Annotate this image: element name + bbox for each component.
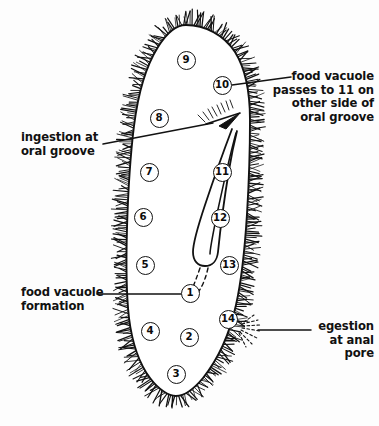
label-egestion-at-anal-pore: egestion at anal pore [264,320,374,361]
anal-pore-egestion-spray [239,315,260,347]
stage-marker-9: 9 [177,51,196,70]
stage-marker-11: 11 [213,163,232,182]
stage-marker-5: 5 [136,256,155,275]
stage-marker-10: 10 [213,76,232,95]
stage-marker-3: 3 [167,365,186,384]
stage-marker-1: 1 [181,284,200,303]
stage-marker-8: 8 [150,109,169,128]
label-food-vacuole-formation: food vacuole formation [21,286,141,313]
stage-marker-6: 6 [134,208,153,227]
stage-marker-7: 7 [140,163,159,182]
stage-marker-12: 12 [211,209,230,228]
label-food-vacuole-passes-to-11: food vacuole passes to 11 on other side … [242,70,374,124]
stage-marker-2: 2 [180,328,199,347]
stage-marker-14: 14 [219,310,238,329]
stage-marker-13: 13 [220,256,239,275]
paramecium-diagram: ingestion at oral groove food vacuole fo… [0,0,379,426]
label-ingestion-at-oral-groove: ingestion at oral groove [21,131,141,158]
stage-marker-4: 4 [141,322,160,341]
